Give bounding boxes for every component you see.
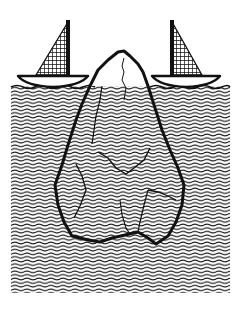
right-sailboat [152,20,220,87]
iceberg-illustration [0,0,244,309]
water [11,86,230,294]
left-sailboat [18,20,88,87]
